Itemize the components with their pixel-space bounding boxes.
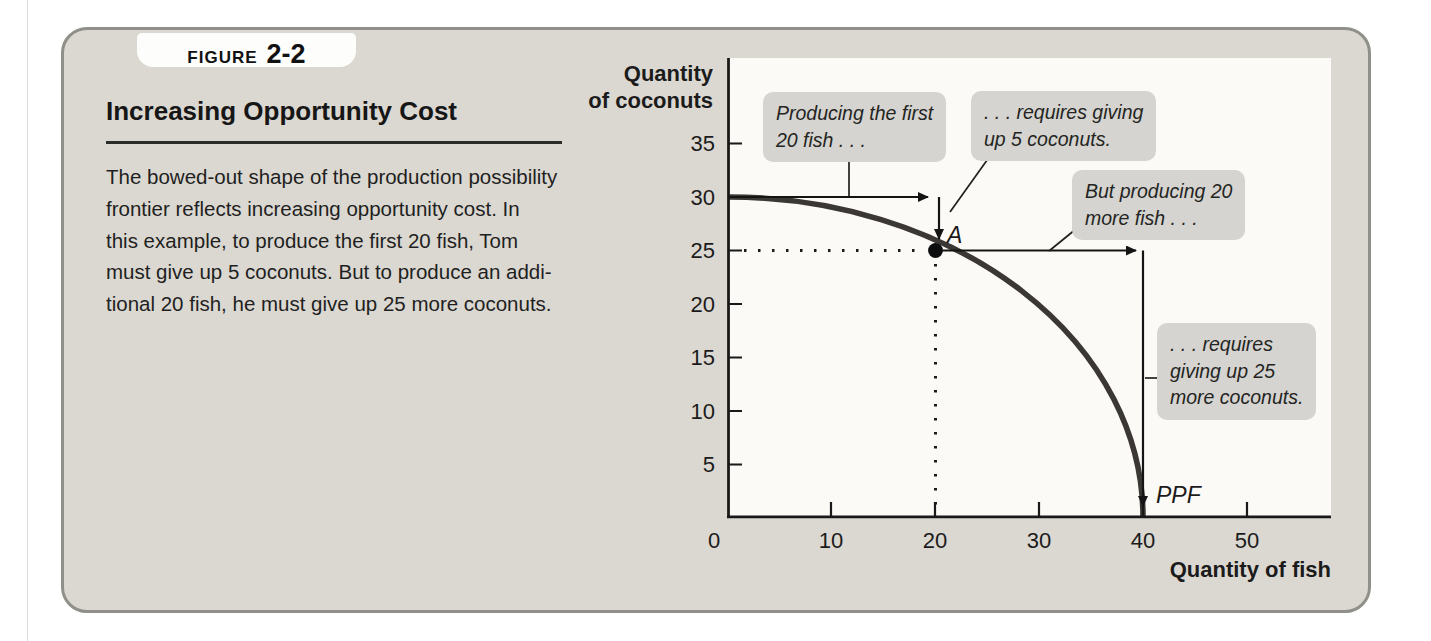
y-axis-title-line2: of coconuts: [588, 88, 713, 113]
x-tick-30: 30: [1027, 528, 1051, 553]
y-tick-30: 30: [691, 185, 715, 210]
x-tick-10: 10: [819, 528, 843, 553]
callout-requires-giving-up-25-more-coconuts: . . . requires giving up 25 more coconut…: [1157, 323, 1316, 420]
callout-but-producing-20-more-fish: But producing 20 more fish . . .: [1072, 170, 1245, 240]
ppf-curve-label: PPF: [1156, 482, 1203, 508]
x-tick-0: 0: [708, 528, 720, 553]
x-tick-50: 50: [1235, 528, 1259, 553]
ppf-chart: A PPF 35 30 25 20 15 10 5 0 10 20 30 40 …: [0, 0, 1431, 641]
y-tick-10: 10: [691, 399, 715, 424]
y-tick-25: 25: [691, 238, 715, 263]
y-tick-35: 35: [691, 131, 715, 156]
y-axis-title-line1: Quantity: [624, 61, 714, 86]
textbook-figure-page: { "figure_tab": { "word": "FIGURE", "num…: [0, 0, 1431, 641]
callout-producing-first-20-fish: Producing the first 20 fish . . .: [763, 92, 946, 162]
point-A-marker: [928, 243, 943, 258]
y-tick-20: 20: [691, 292, 715, 317]
x-tick-20: 20: [923, 528, 947, 553]
x-tick-40: 40: [1131, 528, 1155, 553]
point-A-label: A: [945, 222, 962, 248]
y-tick-15: 15: [691, 345, 715, 370]
callout-requires-giving-up-5-coconuts: . . . requires giving up 5 coconuts.: [971, 91, 1156, 161]
y-tick-5: 5: [703, 452, 715, 477]
x-axis-title: Quantity of fish: [1170, 557, 1331, 582]
